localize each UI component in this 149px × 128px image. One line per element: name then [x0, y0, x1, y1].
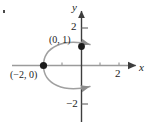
y-tick-label-2: 2: [71, 21, 77, 32]
y-tick-label-minus-2: −2: [66, 98, 78, 109]
x-tick-label-2: 2: [115, 68, 121, 79]
point-0-1: [78, 43, 85, 50]
parabola-figure: y x 2 −2 2 (0, 1) (−2, 0): [0, 0, 149, 128]
parabola-lower-branch: [44, 66, 91, 89]
point-minus2-0: [40, 62, 47, 69]
x-axis-label: x: [139, 62, 144, 73]
point-label-minus2-0: (−2, 0): [10, 70, 37, 80]
y-axis-label: y: [72, 2, 77, 13]
point-label-0-1: (0, 1): [49, 35, 71, 45]
